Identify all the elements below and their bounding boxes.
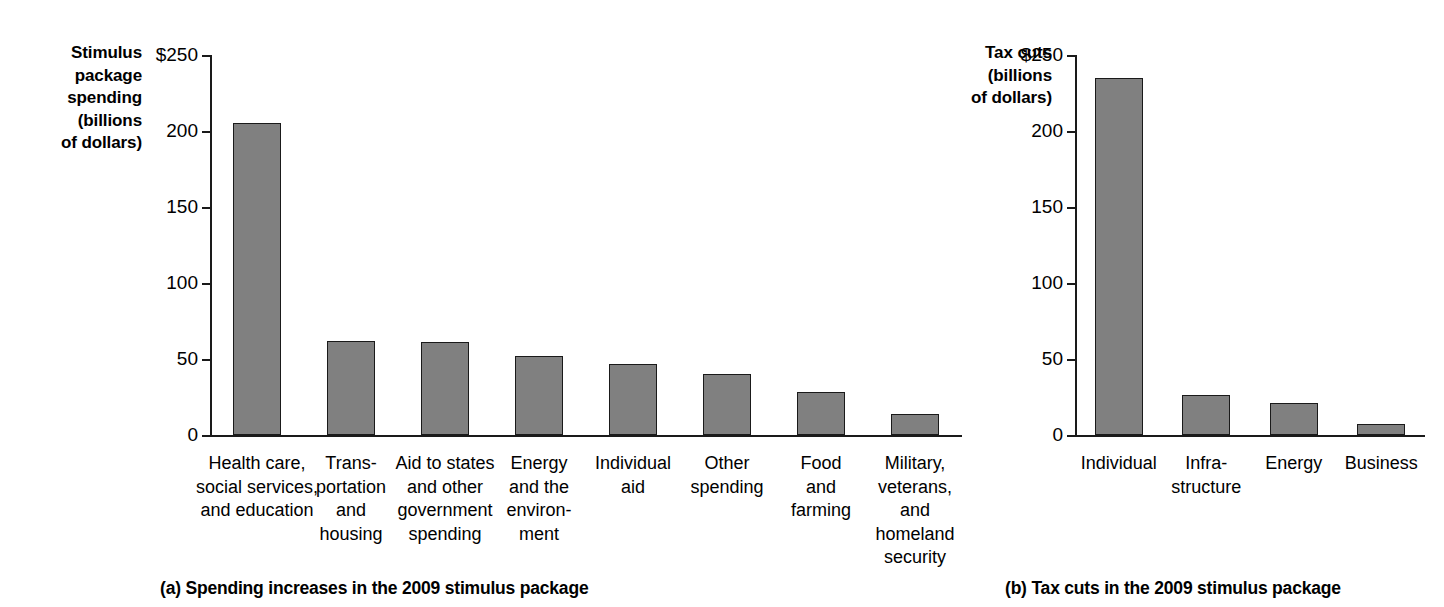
y-tick-mark — [1067, 207, 1076, 209]
y-tick-mark — [1067, 359, 1076, 361]
plot-area-b: 050100150200$250 — [1075, 55, 1425, 437]
x-axis-line-a — [210, 435, 962, 437]
y-tick-mark — [1067, 435, 1076, 437]
y-tick-label: 150 — [1031, 196, 1063, 217]
caption-b: (b) Tax cuts in the 2009 stimulus packag… — [1005, 578, 1341, 599]
x-axis-line-b — [1075, 435, 1425, 437]
caption-a: (a) Spending increases in the 2009 stimu… — [160, 578, 588, 599]
bar — [421, 342, 470, 435]
y-tick-mark — [1067, 131, 1076, 133]
bar — [515, 356, 564, 435]
y-tick-mark — [202, 283, 211, 285]
y-axis-line-b — [1075, 55, 1077, 437]
y-tick-label: 50 — [177, 348, 198, 369]
bar — [233, 123, 282, 435]
figure-two-bar-charts: Stimulus package spending (billions of d… — [0, 0, 1444, 607]
bar — [1357, 424, 1405, 435]
bar — [609, 364, 658, 435]
y-tick-mark — [202, 131, 211, 133]
y-tick-label: 0 — [187, 424, 198, 445]
y-tick-mark — [202, 55, 211, 57]
y-tick-label: 200 — [1031, 120, 1063, 141]
y-tick-mark — [202, 207, 211, 209]
y-tick-label: 200 — [166, 120, 198, 141]
bar — [797, 392, 846, 435]
plot-area-a: 050100150200$250 — [210, 55, 962, 437]
bar — [1095, 78, 1143, 435]
y-tick-label: 50 — [1042, 348, 1063, 369]
bar — [891, 414, 940, 435]
y-tick-label: 100 — [166, 272, 198, 293]
y-tick-label: 0 — [1052, 424, 1063, 445]
y-axis-line-a — [210, 55, 212, 437]
bar — [703, 374, 752, 435]
y-tick-label: 100 — [1031, 272, 1063, 293]
x-category-label: Business — [1326, 452, 1436, 476]
y-tick-mark — [1067, 55, 1076, 57]
y-axis-title-a: Stimulus package spending (billions of d… — [10, 42, 142, 155]
y-tick-label: $250 — [1021, 44, 1063, 65]
bar — [327, 341, 376, 435]
x-category-label: Military, veterans, and homeland securit… — [835, 452, 995, 570]
y-tick-label: 150 — [166, 196, 198, 217]
y-tick-mark — [1067, 283, 1076, 285]
bar — [1270, 403, 1318, 435]
y-tick-label: $250 — [156, 44, 198, 65]
y-tick-mark — [202, 359, 211, 361]
y-tick-mark — [202, 435, 211, 437]
bar — [1182, 395, 1230, 435]
